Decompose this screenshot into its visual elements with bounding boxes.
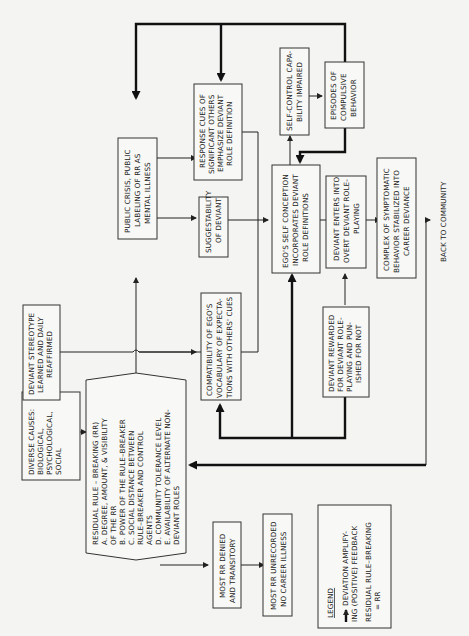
node-deviant-stereotype: DEVIANT STEREOTYPE LEARNED AND DAILY REA… [23, 305, 60, 400]
svg-text:COMPATIBILITY OF EGO'S: COMPATIBILITY OF EGO'S [205, 303, 214, 396]
node-deviant-rewarded: DEVIANT REWARDED FOR DEVIANT ROLE- PLAYI… [323, 307, 369, 397]
node-most-rr-denied: MOST RR DENIED AND TRANSITORY [213, 522, 241, 608]
svg-text:VOCABULARY OF EXPECTA-: VOCABULARY OF EXPECTA- [215, 298, 224, 398]
svg-text:PUBLIC CRISIS, PUBLIC: PUBLIC CRISIS, PUBLIC [123, 149, 132, 233]
svg-text:ROLE DEFINITIONS: ROLE DEFINITIONS [301, 193, 310, 262]
svg-text:SOCIAL: SOCIAL [54, 448, 63, 475]
svg-text:MOST RR UNRECORDED: MOST RR UNRECORDED [269, 521, 278, 610]
node-compatibility: COMPATIBILITY OF EGO'S VOCABULARY OF EXP… [201, 293, 241, 400]
svg-text:OF THE RR: OF THE RR [109, 505, 118, 545]
svg-text:DEVIANT REWARDED: DEVIANT REWARDED [327, 314, 336, 392]
node-suggestability: SUGGESTABILITY OF DEVIANT [199, 190, 228, 257]
svg-text:REAFFIRMED: REAFFIRMED [45, 331, 54, 378]
node-diverse-causes: DIVERSE CAUSES: BIOLOGICAL, PSYCHOLOGICA… [22, 392, 80, 480]
svg-text:CAREER DEVIANCE: CAREER DEVIANCE [402, 186, 411, 256]
svg-text:PSYCHOLOGICAL,: PSYCHOLOGICAL, [45, 411, 54, 475]
back-to-community-label: BACK TO COMMUNITY [439, 181, 448, 262]
svg-text:EGO'S SELF CONCEPTION: EGO'S SELF CONCEPTION [281, 174, 290, 268]
svg-text:MOST RR DENIED: MOST RR DENIED [218, 533, 227, 598]
legend: LEGEND DEVIATION AMPLIFY- ING (POSITIVE)… [318, 505, 391, 628]
svg-text:EPISODES OF: EPISODES OF [329, 71, 338, 120]
svg-text:AGENTS: AGENTS [145, 515, 154, 545]
svg-text:COMPULSIVE: COMPULSIVE [339, 73, 348, 121]
svg-text:E. AVAILABILITY OF ALTERNATE: E. AVAILABILITY OF ALTERNATE NON- [163, 409, 172, 545]
node-episodes-compulsive: EPISODES OF COMPULSIVE BEHAVIOR [325, 62, 364, 128]
svg-text:TIONS WITH OTHERS' CUES: TIONS WITH OTHERS' CUES [225, 296, 234, 399]
svg-text:RULE–BREAKER AND CONTROL: RULE–BREAKER AND CONTROL [136, 431, 145, 545]
labeling-theory-flowchart: DIVERSE CAUSES: BIOLOGICAL, PSYCHOLOGICA… [0, 0, 469, 636]
svg-text:LABELING OF RR AS: LABELING OF RR AS [133, 153, 142, 227]
node-complex-symptomatic: COMPLEX OF SYMPTOMATIC BEHAVIOR STABILIZ… [377, 158, 416, 278]
svg-text:DEVIATION AMPLIFY-: DEVIATION AMPLIFY- [341, 531, 350, 606]
svg-text:FOR DEVIANT ROLE-: FOR DEVIANT ROLE- [336, 317, 345, 392]
feedback-arrow-to-compatibility [220, 395, 345, 438]
svg-text:DEVIANT ROLES: DEVIANT ROLES [172, 486, 181, 545]
node-public-crisis: PUBLIC CRISIS, PUBLIC LABELING OF RR AS … [118, 138, 157, 239]
node-response-cues: RESPONSE CUES OF SIGNIFICANT OTHERS EMPH… [194, 84, 242, 180]
svg-text:B. POWER OF THE RULE–BREAKER: B. POWER OF THE RULE–BREAKER [118, 419, 127, 545]
svg-text:MENTAL ILLNESS: MENTAL ILLNESS [143, 162, 152, 224]
svg-text:C. SOCIAL DISTANCE BETWEEN: C. SOCIAL DISTANCE BETWEEN [127, 431, 136, 545]
svg-text:SIGNIFICANT OTHERS: SIGNIFICANT OTHERS [207, 94, 216, 174]
svg-text:OVERT DEVIANT ROLE-: OVERT DEVIANT ROLE- [342, 179, 351, 263]
svg-text:SELF-CONTROL CAPA-: SELF-CONTROL CAPA- [285, 51, 294, 131]
svg-text:RESIDUAL RULE – BREAKING (RR): RESIDUAL RULE – BREAKING (RR) [91, 422, 100, 545]
svg-text:DIVERSE CAUSES:: DIVERSE CAUSES: [27, 409, 36, 475]
svg-text:LEARNED AND DAILY: LEARNED AND DAILY [36, 317, 45, 393]
svg-text:ROLE DEFINITION: ROLE DEFINITION [225, 102, 234, 166]
svg-text:NO CAREER ILLNESS: NO CAREER ILLNESS [279, 531, 288, 607]
node-most-rr-unrecorded: MOST RR UNRECORDED NO CAREER ILLNESS [263, 514, 292, 616]
svg-text:OF DEVIANT: OF DEVIANT [214, 198, 223, 243]
svg-text:BIOLOGICAL,: BIOLOGICAL, [36, 428, 45, 475]
connector-compatibility [240, 220, 258, 352]
connector-response [242, 132, 258, 220]
svg-text:RESIDUAL RULE–BREAKING: RESIDUAL RULE–BREAKING [364, 522, 373, 622]
svg-text:INCORPORATES DEVIANT: INCORPORATES DEVIANT [291, 174, 300, 266]
node-deviant-enters: DEVIANT ENTERS INTO OVERT DEVIANT ROLE- … [326, 176, 366, 268]
svg-text:BILITY IMPAIRED: BILITY IMPAIRED [295, 62, 304, 122]
svg-text:= RR: = RR [373, 591, 382, 610]
node-ego-self-conception: EGO'S SELF CONCEPTION INCORPORATES DEVIA… [272, 165, 320, 273]
svg-text:PLAYING: PLAYING [352, 203, 361, 234]
node-residual-rule-breaking: RESIDUAL RULE – BREAKING (RR) A. DEGREE,… [86, 373, 186, 560]
svg-text:A. DEGREE, AMOUNT, & VISIBIL: A. DEGREE, AMOUNT, & VISIBILITY [100, 418, 109, 545]
svg-text:EMPHASIZE DEVIANT: EMPHASIZE DEVIANT [216, 94, 225, 172]
svg-text:COMPLEX OF SYMPTOMATIC: COMPLEX OF SYMPTOMATIC [382, 168, 391, 271]
svg-text:PLAYING AND PUN-: PLAYING AND PUN- [345, 322, 354, 392]
svg-text:AND TRANSITORY: AND TRANSITORY [228, 538, 237, 603]
svg-text:D. COMMUNITY TOLERANCE LEVEL: D. COMMUNITY TOLERANCE LEVEL [154, 418, 163, 545]
svg-text:DEVIANT STEREOTYPE: DEVIANT STEREOTYPE [27, 312, 36, 395]
node-self-control: SELF-CONTROL CAPA- BILITY IMPAIRED [280, 48, 309, 135]
svg-text:ING (POSITIVE) FEEDBACK: ING (POSITIVE) FEEDBACK [350, 525, 359, 622]
svg-text:ISHED FOR NOT: ISHED FOR NOT [354, 324, 363, 383]
legend-title: LEGEND [326, 587, 335, 618]
svg-text:SUGGESTABILITY: SUGGESTABILITY [204, 190, 213, 253]
svg-text:RESPONSE CUES OF: RESPONSE CUES OF [198, 94, 207, 168]
svg-text:BEHAVIOR STABILIZED INTO: BEHAVIOR STABILIZED INTO [392, 170, 401, 273]
svg-text:DEVIANT ENTERS INTO: DEVIANT ENTERS INTO [332, 177, 341, 261]
svg-text:BEHAVIOR: BEHAVIOR [349, 79, 358, 117]
